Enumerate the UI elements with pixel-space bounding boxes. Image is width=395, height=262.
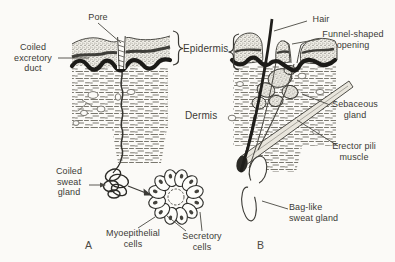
coil-lumen: [168, 189, 184, 205]
secretory-coil-magnified-view: [128, 168, 205, 225]
secretory-cells-label: Secretory cells: [174, 231, 230, 252]
pore-label: Pore: [82, 12, 114, 23]
secretory-leader-line-2: [200, 212, 202, 231]
bag-like-gland-leader-line: [262, 201, 288, 209]
skin-structure-figure: Pore Coiled excretory duct Epidermis Der…: [0, 0, 395, 262]
sebaceous-gland-label: Sebaceous gland: [328, 99, 382, 120]
erector-pili-muscle-label: Erector pili muscle: [324, 141, 384, 162]
panel-b-label: B: [257, 239, 271, 251]
dermis-label: Dermis: [185, 110, 223, 122]
hair-leader-line: [274, 21, 307, 31]
funnel-shaped-opening-label: Funnel-shaped opening: [318, 29, 388, 50]
myoepithelial-cells-label: Myoepithelial cells: [100, 228, 166, 249]
bag-like-sweat-gland-label: Bag-like sweat gland: [289, 202, 349, 223]
panel-a-label: A: [85, 239, 99, 251]
coiled-excretory-duct-label: Coiled excretory duct: [8, 42, 58, 74]
coiled-sweat-gland-label: Coiled sweat gland: [48, 166, 90, 198]
myoepithelial-leader-line: [138, 217, 155, 228]
coiled-sweat-gland-shape: [103, 163, 129, 198]
epidermis-bracket-left: [173, 31, 183, 65]
hair-label: Hair: [306, 14, 336, 25]
epidermis-label: Epidermis: [183, 43, 229, 55]
